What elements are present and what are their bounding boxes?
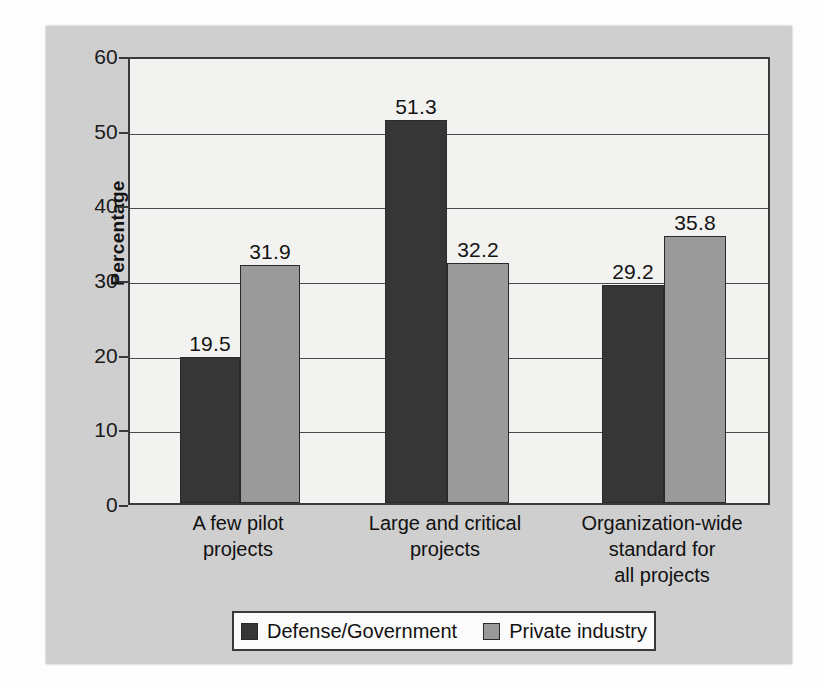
bar-value-label-35-8: 35.8 — [674, 211, 716, 235]
chart-figure-panel: Percentage 60 50 40 30 20 10 0 — [46, 26, 792, 664]
y-tick-label-40: 40 — [94, 194, 118, 218]
y-tick-label-30: 30 — [94, 269, 118, 293]
gridline-50 — [130, 134, 768, 135]
bar-private-industry-large-and-critical-projects — [447, 263, 509, 503]
y-tick-mark-50 — [119, 132, 128, 134]
y-tick-label-10: 10 — [94, 418, 118, 442]
legend-swatch-icon-light — [483, 623, 500, 640]
y-tick-mark-40 — [119, 206, 128, 208]
category-line: A few pilot — [123, 510, 353, 536]
bar-defense-government-organization-wide-standard-for-all-projects — [602, 285, 664, 503]
category-label-large-and-critical-projects: Large and critical projects — [330, 510, 560, 562]
y-tick-label-20: 20 — [94, 344, 118, 368]
y-tick-mark-30 — [119, 281, 128, 283]
y-tick-mark-60 — [119, 57, 128, 59]
legend-label-private-industry: Private industry — [509, 620, 647, 643]
y-tick-mark-10 — [119, 430, 128, 432]
legend-swatch-icon-dark — [241, 623, 258, 640]
y-tick-label-60: 60 — [94, 45, 118, 69]
bar-private-industry-organization-wide-standard-for-all-projects — [664, 236, 726, 503]
category-label-organization-wide-standard-for-all-projects: Organization-wide standard for all proje… — [547, 510, 777, 588]
bar-value-label-19-5: 19.5 — [189, 332, 231, 356]
category-label-a-few-pilot-projects: A few pilot projects — [123, 510, 353, 562]
y-tick-mark-20 — [119, 356, 128, 358]
category-line: projects — [123, 536, 353, 562]
bar-value-label-29-2: 29.2 — [612, 260, 654, 284]
page-canvas: Percentage 60 50 40 30 20 10 0 — [0, 0, 825, 689]
category-line: projects — [330, 536, 560, 562]
legend-label-defense-government: Defense/Government — [267, 620, 457, 643]
category-line: standard for — [547, 536, 777, 562]
bar-value-label-31-9: 31.9 — [249, 240, 291, 264]
plot-area: 19.5 31.9 51.3 32.2 29.2 35.8 — [128, 57, 770, 505]
bar-value-label-32-2: 32.2 — [457, 238, 499, 262]
category-line: all projects — [547, 562, 777, 588]
category-line: Organization-wide — [547, 510, 777, 536]
y-axis-tick-labels: 60 50 40 30 20 10 0 — [82, 57, 118, 505]
y-tick-mark-0 — [119, 505, 128, 507]
gridline-40 — [130, 208, 768, 209]
bar-value-label-51-3: 51.3 — [395, 95, 437, 119]
y-tick-label-0: 0 — [106, 493, 118, 517]
chart-legend: Defense/Government Private industry — [232, 611, 656, 651]
bar-defense-government-large-and-critical-projects — [385, 120, 447, 503]
bar-private-industry-a-few-pilot-projects — [240, 265, 300, 503]
x-axis-category-labels: A few pilot projects Large and critical … — [128, 510, 770, 620]
category-line: Large and critical — [330, 510, 560, 536]
legend-item-defense-government: Defense/Government — [241, 620, 457, 643]
y-tick-label-50: 50 — [94, 120, 118, 144]
bar-defense-government-a-few-pilot-projects — [180, 357, 240, 503]
legend-item-private-industry: Private industry — [483, 620, 647, 643]
